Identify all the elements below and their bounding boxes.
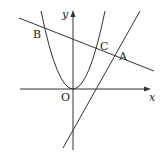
y-axis-arrow-icon: [71, 10, 76, 17]
line-bca: [19, 18, 154, 71]
point-a-label: A: [118, 50, 128, 63]
x-axis-label: x: [149, 91, 156, 104]
point-c-label: C: [100, 40, 108, 53]
y-axis-label: y: [61, 8, 69, 21]
line-steep: [63, 11, 140, 148]
diagram: y x O B C A: [0, 0, 164, 159]
point-b-label: B: [33, 28, 41, 41]
origin-label: O: [61, 91, 70, 104]
